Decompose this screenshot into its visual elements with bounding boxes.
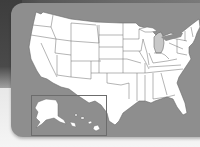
state-hawaii-big-island [93, 125, 100, 131]
state-hawaii-oahu [81, 117, 84, 119]
state-hawaii-kauai [75, 114, 77, 116]
inset-map [32, 96, 106, 135]
state-alaska [35, 99, 66, 128]
state-michigan-highlight [154, 32, 164, 53]
alaska-hawaii-inset [31, 95, 107, 136]
map-panel [11, 3, 200, 137]
state-hawaii-maui [88, 121, 92, 124]
alaska-island-kodiak [70, 122, 76, 127]
